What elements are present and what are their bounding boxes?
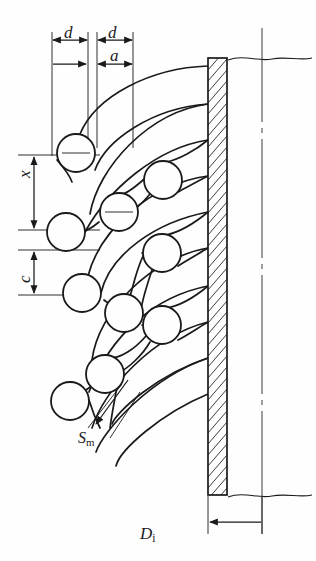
- dimension-label-di-base: D: [140, 524, 152, 543]
- tube-end-8: [143, 306, 181, 344]
- tube-end-4: [47, 213, 85, 251]
- tube-end-9: [86, 355, 124, 393]
- bottom-break-line: [228, 495, 312, 497]
- dimension-label-c: c: [16, 275, 33, 283]
- dimension-label-d-first: d: [64, 24, 73, 41]
- tube-bend-outer-1-upper: [80, 66, 208, 134]
- tube-end-6: [63, 274, 101, 312]
- tubesheet-wall: [208, 48, 227, 521]
- tube-bend-outer-6-lower: [116, 394, 208, 466]
- dimension-label-di-subscript: i: [152, 532, 155, 545]
- tube-end-10: [51, 382, 89, 420]
- dimension-label-sm-base: S: [78, 429, 86, 446]
- tube-end-5: [143, 234, 181, 272]
- dimension-label-a: a: [110, 47, 119, 64]
- dimension-label-sm: Sm: [78, 430, 94, 448]
- dimension-label-d-second: d: [108, 24, 117, 41]
- break-lines: [228, 58, 312, 497]
- tube-end-7: [105, 294, 143, 332]
- tube-end-circles: [47, 134, 182, 420]
- top-break-line: [228, 58, 312, 60]
- tube-bend-inner-2-upper: [166, 212, 208, 235]
- tube-bend-outer-1-lower: [95, 104, 208, 170]
- dimension-label-x: x: [16, 170, 33, 178]
- diagram-canvas: [0, 0, 316, 561]
- u-tube-bundle-diagram: d d a x c Sm Di: [0, 0, 316, 561]
- dimension-label-di: Di: [140, 525, 156, 544]
- tube-end-2: [144, 161, 182, 199]
- dimension-label-sm-subscript: m: [86, 436, 94, 448]
